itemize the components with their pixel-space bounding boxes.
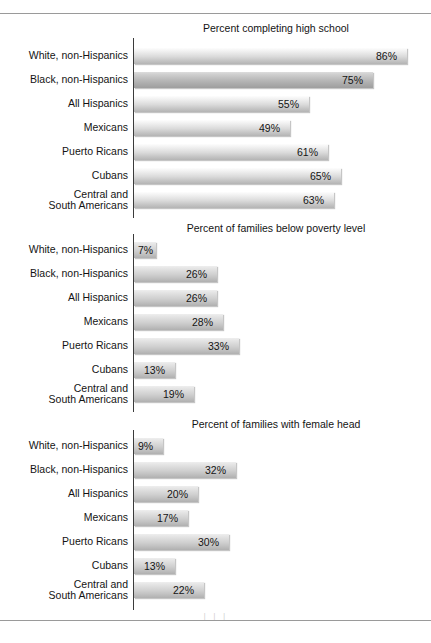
category-label: Central and South Americans — [0, 382, 128, 406]
category-label: White, non-Hispanics — [0, 238, 128, 262]
bar-row: Black, non-Hispanics26% — [0, 262, 431, 286]
bar-value-label: 13% — [144, 362, 165, 378]
bar-row: All Hispanics20% — [0, 482, 431, 506]
bar-value-label: 26% — [186, 266, 207, 282]
bar-track: 32% — [134, 458, 296, 482]
bar-value-label: 20% — [167, 486, 188, 502]
bar-value-label: 7% — [138, 242, 153, 258]
bar-value-label: 63% — [303, 192, 324, 208]
category-label: White, non-Hispanics — [0, 434, 128, 458]
bar — [134, 486, 198, 502]
bar-track: 26% — [134, 286, 277, 310]
category-label: Mexicans — [0, 506, 128, 530]
bar-track: 13% — [134, 358, 235, 382]
bar-row: White, non-Hispanics9% — [0, 434, 431, 458]
chart-panel-female-head: Percent of families with female head Whi… — [0, 0, 431, 192]
bar-value-label: 32% — [205, 462, 226, 478]
category-label: All Hispanics — [0, 286, 128, 310]
bar-row: Central and South Americans19% — [0, 382, 431, 406]
bar-row: Cubans13% — [0, 554, 431, 578]
bottom-divider — [0, 620, 431, 621]
bar-row: White, non-Hispanics7% — [0, 238, 431, 262]
bar-track: 19% — [134, 382, 254, 406]
bar-row: Puerto Ricans30% — [0, 530, 431, 554]
bar-value-label: 9% — [138, 438, 153, 454]
bar-track: 22% — [134, 578, 264, 602]
panel-title: Percent of families with female head — [133, 418, 419, 431]
bar-row: Mexicans28% — [0, 310, 431, 334]
bar-row: Central and South Americans22% — [0, 578, 431, 602]
category-label: Cubans — [0, 554, 128, 578]
bar-value-label: 30% — [198, 534, 219, 550]
category-label: Black, non-Hispanics — [0, 458, 128, 482]
bar-value-label: 22% — [173, 582, 194, 598]
category-label: All Hispanics — [0, 482, 128, 506]
footer-mark: | | | — [196, 612, 236, 620]
bar-value-label: 33% — [208, 338, 229, 354]
bar-track: 30% — [134, 530, 289, 554]
bar-value-label: 26% — [186, 290, 207, 306]
bar-track: 20% — [134, 482, 258, 506]
bar-value-label: 28% — [192, 314, 213, 330]
bar-row: Mexicans17% — [0, 506, 431, 530]
bar-track: 17% — [134, 506, 248, 530]
category-label: Puerto Ricans — [0, 334, 128, 358]
bar-value-label: 19% — [163, 386, 184, 402]
category-label: Mexicans — [0, 310, 128, 334]
bar-row: Cubans13% — [0, 358, 431, 382]
chart-figure: Percent completing high school White, no… — [0, 0, 431, 643]
bar-track: 26% — [134, 262, 277, 286]
bar-row: All Hispanics26% — [0, 286, 431, 310]
panel-title: Percent of families below poverty level — [133, 222, 419, 235]
bar-track: 9% — [134, 434, 223, 458]
bar-row: Black, non-Hispanics32% — [0, 458, 431, 482]
category-label: Cubans — [0, 358, 128, 382]
bar-track: 7% — [134, 238, 216, 262]
bar-track: 33% — [134, 334, 299, 358]
bar-value-label: 17% — [157, 510, 178, 526]
category-label: Black, non-Hispanics — [0, 262, 128, 286]
category-label: Central and South Americans — [0, 578, 128, 602]
bar-value-label: 13% — [144, 558, 165, 574]
bar-row: Puerto Ricans33% — [0, 334, 431, 358]
category-label: Puerto Ricans — [0, 530, 128, 554]
bar-track: 28% — [134, 310, 283, 334]
bar-track: 13% — [134, 554, 235, 578]
